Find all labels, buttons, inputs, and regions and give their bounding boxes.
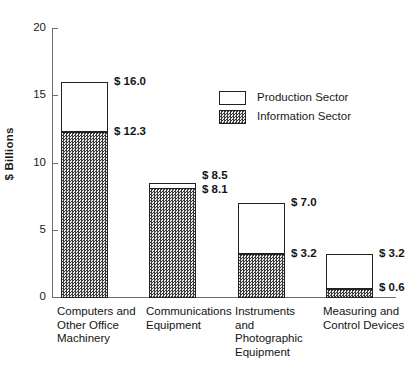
category-label-computers-line-3: Machinery [57,332,149,346]
y-tick-15 [52,95,58,96]
bar-segment-information-computers [61,132,108,298]
category-label-communications-line-2: Equipment [146,319,238,333]
bar-segment-production-instruments [238,203,285,254]
y-tick-5 [52,230,58,231]
value-label-total-measuring: $ 3.2 [379,248,405,260]
y-tick-10 [52,163,58,164]
legend-label-information: Information Sector [257,111,351,123]
value-label-information-computers: $ 12.3 [114,126,146,138]
category-label-instruments-line-3: Photographic [235,332,315,346]
category-label-communications-line-1: Communications [146,305,238,319]
category-label-instruments-line-1: Instruments [235,305,315,319]
y-axis-title: $ Billions [3,119,15,189]
y-tick-20 [52,28,58,29]
value-label-total-communications: $ 8.5 [202,170,228,182]
category-label-measuring: Measuring and Control Devices [323,305,411,332]
y-tick-label-15-wrap: 15 [0,89,46,101]
legend-item-production: Production Sector [219,88,351,107]
value-label-information-communications: $ 8.1 [202,184,228,196]
y-tick-label-20: 20 [0,22,46,34]
category-label-instruments: Instruments and Photographic Equipment [235,305,315,359]
value-label-total-computers: $ 16.0 [114,76,146,88]
legend-item-information: Information Sector [219,107,351,126]
cropped-header-strip [0,0,411,7]
y-tick-label-5-wrap: 5 [0,224,46,236]
y-tick-label-0-wrap: 0 [0,291,46,303]
bar-segment-information-communications [149,188,196,298]
y-tick-label-0: 0 [0,291,46,303]
y-tick-label-20-wrap: 20 [0,22,46,34]
legend-label-production: Production Sector [257,92,348,104]
y-tick-label-15: 15 [0,89,46,101]
category-label-computers-line-1: Computers and [57,305,149,319]
bar-segment-information-instruments [238,254,285,298]
category-label-measuring-line-1: Measuring and [323,305,411,319]
category-label-measuring-line-2: Control Devices [323,319,411,333]
category-label-computers: Computers and Other Office Machinery [57,305,149,346]
bar-segment-production-measuring [326,254,373,289]
legend: Production Sector Information Sector [219,88,351,126]
value-label-information-measuring: $ 0.6 [379,282,405,294]
legend-swatch-production-icon [219,91,246,105]
bar-segment-information-measuring [326,289,373,298]
category-label-instruments-line-2: and [235,319,315,333]
value-label-information-instruments: $ 3.2 [291,248,317,260]
bar-segment-production-computers [61,82,108,132]
stacked-bar-chart: 20 15 10 5 0 $ Billions $ 16.0 $ 12.3 $ … [0,0,411,370]
category-label-communications: Communications Equipment [146,305,238,332]
category-label-computers-line-2: Other Office [57,319,149,333]
value-label-total-instruments: $ 7.0 [291,197,317,209]
category-label-instruments-line-4: Equipment [235,346,315,360]
y-tick-label-5: 5 [0,224,46,236]
legend-swatch-information-icon [219,110,246,124]
